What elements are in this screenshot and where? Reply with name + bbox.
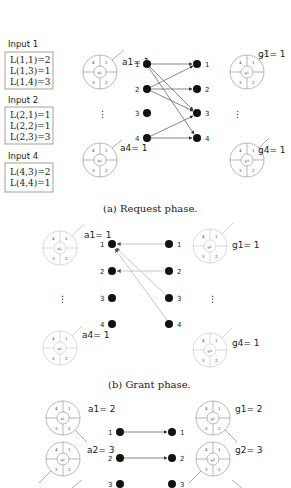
svg-text:1: 1 — [215, 234, 218, 239]
arbiter-a1-label: a1= 1 — [84, 230, 111, 240]
svg-text:3: 3 — [177, 295, 181, 303]
input-2-block: Input 2 L(2,1)=1 L(2,2)=1 L(2,3)=3 — [5, 95, 53, 144]
rr-arbiter-a1: 1 2 3 4 a1 — [46, 401, 87, 442]
arbiter-a4-label: a4= 1 — [82, 330, 109, 340]
arbiter-a4-label: a4= 1 — [120, 143, 147, 153]
request-right-nodes: 1 2 3 4 — [193, 60, 210, 143]
arbiter-g4-label: g4= 1 — [258, 145, 286, 155]
svg-text:g4: g4 — [208, 349, 213, 353]
request-edges — [149, 64, 194, 138]
input-1-title: Input 1 — [8, 39, 38, 49]
grant-edges — [115, 244, 167, 320]
grant-phase: 1 2 3 4 a1 a1= 1 ⋮ 1 2 3 4 a4 a4= 1 1 2 … — [43, 222, 260, 390]
svg-text:4: 4 — [177, 321, 182, 329]
rr-arbiter-g1: 1 2 3 4 g1 — [193, 222, 234, 263]
svg-text:1: 1 — [135, 61, 139, 69]
svg-text:g1: g1 — [245, 71, 249, 75]
arbiter-g4-label: g4= 1 — [232, 338, 260, 348]
rr-arbiter-a1: 1 2 3 4 a1 — [83, 50, 124, 89]
pointer-arrow-icon — [72, 480, 82, 488]
svg-text:1: 1 — [252, 60, 255, 65]
pointer-arrow-icon — [222, 328, 232, 338]
arbiter-g1-label: g1= 2 — [235, 404, 263, 414]
lrow: L(4,3)=2 — [10, 167, 51, 177]
accept-edges — [124, 432, 167, 458]
svg-text:2: 2 — [135, 86, 139, 94]
accept-left-nodes: 1 2 3 — [108, 428, 124, 488]
arbiter-a1-label: a1= 2 — [88, 404, 115, 414]
caption-grant: (b) Grant phase. — [108, 379, 191, 390]
rr-arbiter-a1: 1 2 3 4 a1 — [43, 224, 84, 265]
islip-diagram: Input 1 L(1,1)=2 L(1,3)=1 L(1,4)=3 Input… — [0, 0, 291, 488]
svg-text:1: 1 — [65, 236, 68, 241]
svg-text:g1: g1 — [211, 417, 215, 421]
svg-text:a1: a1 — [58, 247, 62, 251]
pointer-arrow-icon — [72, 224, 84, 236]
svg-text:1: 1 — [100, 241, 104, 249]
svg-text:1: 1 — [105, 148, 108, 153]
arbiter-g1-label: g1= 1 — [232, 240, 260, 250]
lrow: L(2,2)=1 — [10, 121, 51, 131]
svg-text:2: 2 — [205, 86, 209, 94]
lrow: L(4,4)=1 — [10, 178, 51, 188]
ellipsis-left: ⋮ — [98, 109, 107, 119]
request-left-nodes: 1 2 3 4 — [135, 60, 151, 143]
svg-text:4: 4 — [205, 135, 210, 143]
svg-text:a1: a1 — [61, 417, 65, 421]
ellipsis-right: ⋮ — [233, 109, 242, 119]
accept-phase: 1 2 3 4 a1 a1= 2 1 2 3 4 a2 a2= 3 1 2 3 … — [39, 401, 263, 488]
svg-text:4: 4 — [135, 135, 140, 143]
accept-right-nodes: 1 2 3 — [168, 428, 184, 488]
svg-text:1: 1 — [180, 429, 184, 437]
lrow: L(2,3)=3 — [10, 132, 51, 142]
rr-arbiter-g1: 1 2 3 4 g1 — [196, 401, 237, 442]
svg-text:1: 1 — [65, 336, 68, 341]
svg-text:3: 3 — [205, 110, 209, 118]
svg-text:a4: a4 — [58, 347, 63, 351]
pointer-arrow-icon — [222, 222, 234, 234]
input-4-title: Input 4 — [8, 151, 38, 161]
rr-arbiter-a4: 1 2 3 4 a4 — [43, 326, 82, 365]
svg-text:a1: a1 — [98, 71, 102, 75]
rr-arbiter-a4: 1 2 3 4 a4 — [83, 140, 122, 177]
caption-request: (a) Request phase. — [103, 203, 198, 214]
input-1-block: Input 1 L(1,1)=2 L(1,3)=1 L(1,4)=3 — [5, 39, 53, 89]
ellipsis-right: ⋮ — [208, 294, 217, 304]
svg-text:1: 1 — [218, 406, 221, 411]
svg-text:2: 2 — [108, 455, 112, 463]
svg-text:1: 1 — [215, 338, 218, 343]
rr-arbiter-g4: 1 2 3 4 g4 — [230, 138, 269, 177]
svg-text:1: 1 — [252, 148, 255, 153]
pointer-arrow-icon — [225, 430, 237, 442]
svg-text:g2: g2 — [211, 458, 215, 462]
pointer-arrow-icon — [72, 326, 82, 336]
svg-text:1: 1 — [68, 447, 71, 452]
svg-text:3: 3 — [135, 110, 139, 118]
svg-text:1: 1 — [108, 429, 112, 437]
svg-text:1: 1 — [68, 406, 71, 411]
svg-text:1: 1 — [177, 241, 181, 249]
grant-right-nodes: 1 2 3 4 — [165, 240, 182, 329]
input-2-title: Input 2 — [8, 95, 38, 105]
lrow: L(2,1)=1 — [10, 110, 51, 120]
rr-arbiter-g4: 1 2 3 4 g4 — [193, 328, 232, 367]
svg-text:2: 2 — [180, 455, 184, 463]
pointer-arrow-icon — [75, 430, 87, 442]
grant-left-nodes: 1 2 3 4 — [100, 240, 116, 329]
svg-text:3: 3 — [100, 295, 104, 303]
svg-text:4: 4 — [100, 321, 105, 329]
pointer-arrow-icon — [189, 471, 201, 483]
svg-text:1: 1 — [205, 61, 209, 69]
svg-text:a2: a2 — [61, 458, 65, 462]
request-phase: Input 1 L(1,1)=2 L(1,3)=1 L(1,4)=3 Input… — [5, 39, 286, 214]
input-4-block: Input 4 L(4,3)=2 L(4,4)=1 — [5, 151, 53, 192]
svg-text:2: 2 — [100, 268, 104, 276]
svg-text:1: 1 — [105, 60, 108, 65]
svg-text:1: 1 — [218, 447, 221, 452]
arbiter-g2-label: g2= 3 — [235, 445, 263, 455]
lrow: L(1,1)=2 — [10, 55, 51, 65]
lrow: L(1,3)=1 — [10, 66, 51, 76]
rr-arbiter-g2: 1 2 3 4 g2 — [189, 442, 230, 483]
svg-text:g4: g4 — [245, 159, 250, 163]
svg-text:g1: g1 — [208, 245, 212, 249]
